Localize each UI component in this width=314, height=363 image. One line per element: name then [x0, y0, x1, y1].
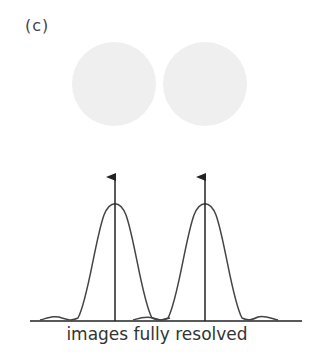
profile-caption: images fully resolved: [0, 324, 314, 344]
airy-disc-right: [163, 42, 247, 126]
intensity-curve-left: [40, 204, 170, 320]
diffraction-diagram: [0, 0, 314, 363]
airy-disc-left: [72, 42, 156, 126]
airy-disc-images: [72, 42, 247, 126]
